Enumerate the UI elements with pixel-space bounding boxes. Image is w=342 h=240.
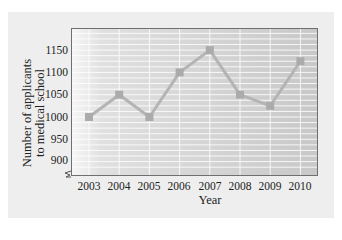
data-point-2004 xyxy=(115,91,123,99)
data-point-2005 xyxy=(145,113,153,121)
data-point-2006 xyxy=(176,68,184,76)
x-axis-label: Year xyxy=(170,193,250,208)
x-tick-2010: 2010 xyxy=(282,180,318,192)
data-point-2003 xyxy=(85,113,93,121)
data-point-2007 xyxy=(206,46,214,54)
data-point-2008 xyxy=(236,91,244,99)
data-point-2009 xyxy=(266,102,274,110)
data-point-2010 xyxy=(296,57,304,65)
axis-break-icon xyxy=(65,171,71,177)
